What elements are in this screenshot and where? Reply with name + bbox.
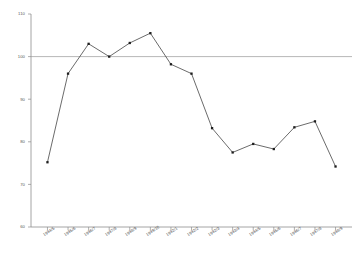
data-point bbox=[211, 127, 213, 129]
data-point bbox=[67, 72, 69, 74]
data-point bbox=[293, 126, 295, 128]
data-point bbox=[46, 161, 48, 163]
data-point bbox=[232, 151, 234, 153]
data-point bbox=[190, 72, 192, 74]
data-point bbox=[87, 43, 89, 45]
data-point bbox=[334, 165, 336, 167]
series-line bbox=[47, 33, 335, 166]
y-tick-label: 80 bbox=[11, 139, 25, 144]
data-series bbox=[47, 33, 335, 166]
chart-canvas bbox=[0, 0, 361, 253]
y-tick-label: 60 bbox=[11, 224, 25, 229]
data-point bbox=[149, 32, 151, 34]
data-point bbox=[273, 148, 275, 150]
y-tick-label: 110 bbox=[11, 11, 25, 16]
data-point bbox=[252, 143, 254, 145]
data-point bbox=[170, 63, 172, 65]
data-point bbox=[108, 55, 110, 57]
data-markers bbox=[46, 32, 336, 168]
data-point bbox=[314, 120, 316, 122]
y-tick-label: 100 bbox=[11, 54, 25, 59]
y-tick-label: 70 bbox=[11, 182, 25, 187]
axes bbox=[31, 14, 352, 227]
data-point bbox=[129, 42, 131, 44]
line-chart: 60708090100110 1994/51995/61996/71997/81… bbox=[0, 0, 361, 253]
y-tick-label: 90 bbox=[11, 97, 25, 102]
y-axis-ticks bbox=[28, 14, 31, 227]
